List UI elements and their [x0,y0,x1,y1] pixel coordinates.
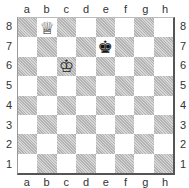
file-label-d: d [76,177,96,188]
square-d6[interactable] [76,57,95,76]
file-label-e: e [96,177,116,188]
square-b1[interactable] [37,154,56,173]
file-label-c: c [57,177,77,188]
square-h5[interactable] [154,76,173,95]
square-g4[interactable] [134,96,153,115]
file-label-a: a [17,4,37,15]
rank-label-2: 2 [177,139,189,150]
square-f8[interactable] [115,18,134,37]
rank-label-1: 1 [177,159,189,170]
square-g5[interactable] [134,76,153,95]
rank-label-3: 3 [3,120,15,131]
square-b8[interactable]: ♕ [37,18,56,37]
square-g7[interactable] [134,37,153,56]
square-a2[interactable] [18,134,37,153]
square-c5[interactable] [57,76,76,95]
file-label-f: f [116,4,136,15]
rank-label-8: 8 [3,21,15,32]
square-f3[interactable] [115,115,134,134]
square-c7[interactable] [57,37,76,56]
square-e2[interactable] [96,134,115,153]
square-h8[interactable] [154,18,173,37]
square-b3[interactable] [37,115,56,134]
rank-label-2: 2 [3,139,15,150]
black-king-icon[interactable]: ♚ [98,39,113,56]
square-a8[interactable] [18,18,37,37]
square-g2[interactable] [134,134,153,153]
file-label-b: b [37,4,57,15]
square-g3[interactable] [134,115,153,134]
square-a7[interactable] [18,37,37,56]
file-label-a: a [17,177,37,188]
square-a3[interactable] [18,115,37,134]
square-h4[interactable] [154,96,173,115]
square-g6[interactable] [134,57,153,76]
square-e1[interactable] [96,154,115,173]
square-c2[interactable] [57,134,76,153]
square-d4[interactable] [76,96,95,115]
rank-label-1: 1 [3,159,15,170]
rank-label-5: 5 [3,80,15,91]
square-e7[interactable]: ♚ [96,37,115,56]
square-e8[interactable] [96,18,115,37]
square-d5[interactable] [76,76,95,95]
rank-label-5: 5 [177,80,189,91]
file-label-g: g [136,4,156,15]
square-d2[interactable] [76,134,95,153]
square-c4[interactable] [57,96,76,115]
square-c1[interactable] [57,154,76,173]
file-label-g: g [136,177,156,188]
file-label-e: e [96,4,116,15]
square-h3[interactable] [154,115,173,134]
square-g8[interactable] [134,18,153,37]
square-f5[interactable] [115,76,134,95]
rank-label-6: 6 [3,60,15,71]
square-f6[interactable] [115,57,134,76]
chess-board: ♕♚♔ [17,17,175,175]
rank-label-6: 6 [177,60,189,71]
square-e6[interactable] [96,57,115,76]
square-a6[interactable] [18,57,37,76]
square-d1[interactable] [76,154,95,173]
rank-label-7: 7 [177,41,189,52]
square-d8[interactable] [76,18,95,37]
rank-label-3: 3 [177,120,189,131]
square-e4[interactable] [96,96,115,115]
rank-label-4: 4 [177,100,189,111]
file-label-b: b [37,177,57,188]
square-c3[interactable] [57,115,76,134]
file-label-c: c [57,4,77,15]
square-e5[interactable] [96,76,115,95]
file-label-d: d [76,4,96,15]
rank-label-8: 8 [177,21,189,32]
square-h6[interactable] [154,57,173,76]
square-a5[interactable] [18,76,37,95]
square-g1[interactable] [134,154,153,173]
square-c8[interactable] [57,18,76,37]
file-label-h: h [155,177,175,188]
file-label-h: h [155,4,175,15]
square-b5[interactable] [37,76,56,95]
square-f2[interactable] [115,134,134,153]
square-d7[interactable] [76,37,95,56]
square-c6[interactable]: ♔ [57,57,76,76]
square-f7[interactable] [115,37,134,56]
white-king-icon[interactable]: ♔ [59,58,74,75]
file-label-f: f [116,177,136,188]
rank-label-7: 7 [3,41,15,52]
square-f4[interactable] [115,96,134,115]
square-h2[interactable] [154,134,173,153]
square-a1[interactable] [18,154,37,173]
square-b7[interactable] [37,37,56,56]
square-e3[interactable] [96,115,115,134]
square-f1[interactable] [115,154,134,173]
square-h7[interactable] [154,37,173,56]
square-b4[interactable] [37,96,56,115]
square-a4[interactable] [18,96,37,115]
rank-label-4: 4 [3,100,15,111]
white-queen-icon[interactable]: ♕ [39,20,54,37]
square-h1[interactable] [154,154,173,173]
square-b2[interactable] [37,134,56,153]
square-b6[interactable] [37,57,56,76]
square-d3[interactable] [76,115,95,134]
